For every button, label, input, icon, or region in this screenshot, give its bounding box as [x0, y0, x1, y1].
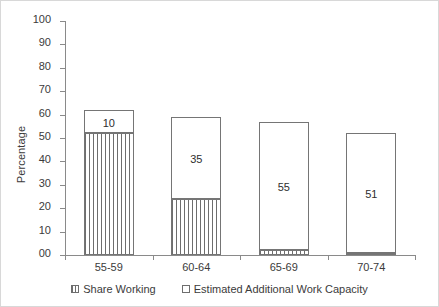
y-axis-tick: 50 — [60, 138, 65, 139]
bar-value-label: 35 — [171, 153, 221, 165]
y-axis-tick: 100 — [60, 21, 65, 22]
y-axis-tick-label: 60 — [39, 107, 51, 119]
hatched-square-icon — [71, 285, 79, 293]
bar-55-59[interactable]: 10 — [84, 21, 134, 255]
x-axis-tick — [240, 255, 241, 260]
bar-value-label: 55 — [259, 181, 309, 193]
x-axis-tick — [153, 255, 154, 260]
y-axis-tick-label: 30 — [39, 177, 51, 189]
legend-item-additional-capacity[interactable]: Estimated Additional Work Capacity — [182, 283, 368, 295]
y-axis-tick-label: 80 — [39, 60, 51, 72]
bar-segment-share-working[interactable] — [346, 253, 396, 255]
x-axis-tick — [328, 255, 329, 260]
y-axis-tick: 70 — [60, 91, 65, 92]
plot-area: 001020304050607080901001055-593560-64556… — [65, 21, 415, 255]
y-axis-tick: 80 — [60, 68, 65, 69]
y-axis-tick: 90 — [60, 44, 65, 45]
y-axis-tick-label: 50 — [39, 130, 51, 142]
legend-item-label: Estimated Additional Work Capacity — [194, 283, 368, 295]
bar-segment-share-working[interactable] — [259, 250, 309, 255]
y-axis-tick: 20 — [60, 208, 65, 209]
y-axis-line — [65, 21, 66, 256]
chart-legend: Share WorkingEstimated Additional Work C… — [1, 283, 438, 295]
x-axis-tick — [415, 255, 416, 260]
y-axis-tick-label: 20 — [39, 200, 51, 212]
bar-65-69[interactable]: 55 — [259, 21, 309, 255]
legend-item-share-working[interactable]: Share Working — [71, 283, 156, 295]
y-axis-tick: 30 — [60, 185, 65, 186]
y-axis-tick: 10 — [60, 232, 65, 233]
bar-value-label: 51 — [346, 188, 396, 200]
empty-square-icon — [182, 285, 190, 293]
y-axis-tick-label: 70 — [39, 83, 51, 95]
bar-segment-share-working[interactable] — [84, 133, 134, 255]
bar-segment-share-working[interactable] — [171, 199, 221, 255]
y-axis-tick: 60 — [60, 115, 65, 116]
y-axis-tick-label: 90 — [39, 36, 51, 48]
bar-60-64[interactable]: 35 — [171, 21, 221, 255]
y-axis-tick-label: 100 — [33, 13, 51, 25]
x-axis-tick — [65, 255, 66, 260]
y-axis-tick-label: 40 — [39, 153, 51, 165]
y-axis-tick-label: 10 — [39, 224, 51, 236]
bar-value-label: 10 — [84, 117, 134, 129]
x-axis-category-label: 70-74 — [316, 261, 426, 273]
y-axis-tick-label: 00 — [39, 247, 51, 259]
y-axis-tick: 40 — [60, 161, 65, 162]
chart-figure: Percentage 001020304050607080901001055-5… — [0, 0, 439, 307]
y-axis-title: Percentage — [13, 1, 29, 307]
bar-70-74[interactable]: 51 — [346, 21, 396, 255]
legend-item-label: Share Working — [83, 283, 156, 295]
